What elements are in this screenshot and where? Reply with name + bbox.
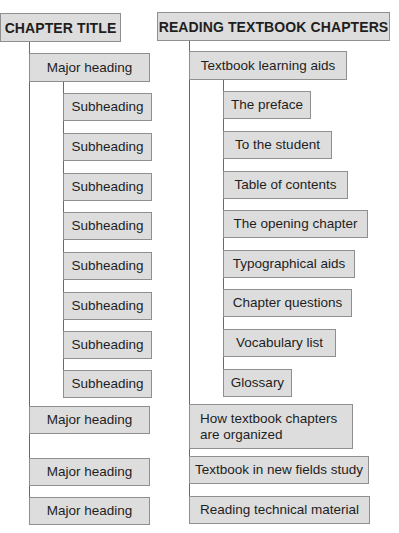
left-subheading: Subheading: [63, 292, 152, 320]
right-major-heading-3: Textbook in new fields study: [189, 456, 369, 484]
left-chapter-title: CHAPTER TITLE: [0, 13, 121, 42]
left-subheading: Subheading: [63, 93, 152, 121]
left-major-heading-1: Major heading: [29, 53, 150, 82]
right-subheading: Vocabulary list: [223, 329, 336, 357]
left-subheading: Subheading: [63, 212, 152, 240]
right-major-heading-1: Textbook learning aids: [189, 51, 347, 80]
right-subheading: Chapter questions: [223, 289, 352, 317]
right-major-heading-4: Reading technical material: [189, 496, 370, 524]
left-subheading: Subheading: [63, 370, 152, 398]
right-subheading: Table of contents: [223, 171, 348, 199]
left-subheading: Subheading: [63, 173, 152, 201]
right-chapter-title: READING TEXTBOOK CHAPTERS: [157, 12, 390, 41]
left-subheading: Subheading: [63, 252, 152, 280]
right-subheading: The opening chapter: [223, 210, 368, 238]
right-subheading: The preface: [223, 91, 311, 119]
left-subheading: Subheading: [63, 133, 152, 161]
right-subheading: Glossary: [223, 369, 292, 397]
left-major-heading-3: Major heading: [29, 458, 150, 486]
left-main-connector: [29, 42, 30, 511]
right-subheading: To the student: [223, 131, 332, 159]
left-major-heading-2: Major heading: [29, 406, 150, 434]
left-subheading: Subheading: [63, 331, 152, 359]
right-major-heading-2: How textbook chapters are organized: [189, 404, 353, 449]
right-subheading: Typographical aids: [223, 250, 355, 278]
left-major-heading-4: Major heading: [29, 497, 150, 525]
